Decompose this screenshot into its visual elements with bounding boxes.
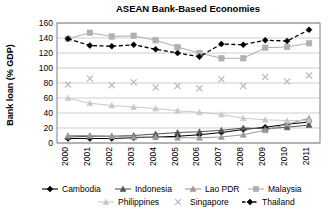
y-axis-title: Bank loan (% GDP) — [5, 44, 15, 126]
legend-label-lao-pdr: Lao PDR — [205, 184, 240, 194]
x-tick-label: 2011 — [301, 147, 311, 166]
legend-label-cambodia: Cambodia — [62, 184, 101, 194]
y-tick-label: 60 — [44, 93, 54, 103]
x-tick-label: 2008 — [235, 147, 245, 166]
x-tick-label: 2007 — [213, 147, 223, 166]
x-tick-label: 2002 — [104, 147, 114, 166]
data-point-square — [175, 44, 181, 50]
y-tick-label: 100 — [39, 63, 53, 73]
data-point-square — [153, 37, 159, 43]
data-point-square — [109, 34, 115, 40]
x-tick-label: 2000 — [60, 147, 70, 166]
legend-label-indonesia: Indonesia — [135, 184, 172, 194]
x-tick-label: 2001 — [82, 147, 92, 166]
legend-label-malaysia: Malaysia — [268, 184, 302, 194]
data-point-square — [262, 45, 268, 51]
chart-container: ASEAN Bank-Based Economies Bank loan (% … — [0, 0, 332, 221]
y-tick-label: 40 — [44, 108, 54, 118]
y-tick-label: 140 — [39, 33, 53, 43]
legend-label-thailand: Thailand — [262, 197, 295, 207]
data-point-square — [306, 40, 312, 46]
data-point-square — [219, 55, 225, 61]
asean-bank-loan-chart: ASEAN Bank-Based Economies Bank loan (% … — [0, 0, 332, 221]
data-point-square — [253, 186, 259, 192]
x-tick-label: 2004 — [148, 147, 158, 166]
data-point-square — [284, 44, 290, 50]
y-tick-label: 0 — [48, 138, 53, 148]
y-tick-label: 120 — [39, 48, 53, 58]
data-point-square — [240, 55, 246, 61]
data-point-square — [131, 33, 137, 39]
y-tick-label: 20 — [44, 123, 54, 133]
x-tick-label: 2005 — [170, 147, 180, 166]
data-point-square — [87, 30, 93, 36]
x-tick-label: 2010 — [279, 147, 289, 166]
y-tick-label: 160 — [39, 18, 53, 28]
legend-label-philippines: Philippines — [118, 197, 159, 207]
chart-title: ASEAN Bank-Based Economies — [116, 3, 260, 14]
y-tick-label: 80 — [44, 78, 54, 88]
x-tick-label: 2003 — [126, 147, 136, 166]
x-tick-label: 2009 — [257, 147, 267, 166]
legend-label-singapore: Singapore — [190, 197, 229, 207]
x-tick-label: 2006 — [191, 147, 201, 166]
